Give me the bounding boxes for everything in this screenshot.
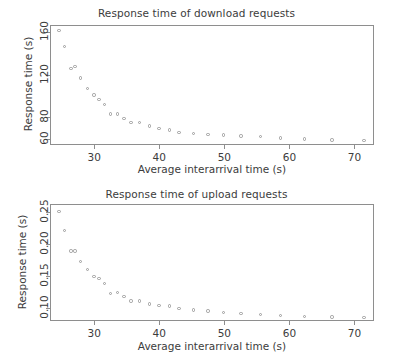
data-point	[129, 121, 132, 124]
data-point	[239, 312, 242, 315]
plot-frame-upload	[50, 204, 374, 321]
data-point	[109, 292, 112, 295]
data-point	[362, 316, 365, 319]
data-point	[177, 307, 180, 310]
data-point	[192, 132, 195, 135]
data-point	[222, 311, 225, 314]
x-tick-label: 60	[283, 151, 296, 163]
chart-title-upload: Response time of upload requests	[0, 188, 393, 200]
data-point	[73, 249, 76, 252]
x-axis-title-upload: Average interarrival time (s)	[50, 340, 374, 352]
chart-panel-upload: Response time of upload requests Respons…	[0, 182, 393, 364]
data-point	[192, 308, 195, 311]
data-point	[63, 45, 66, 48]
x-axis-title-download: Average interarrival time (s)	[50, 163, 374, 175]
chart-title-download: Response time of download requests	[0, 7, 393, 19]
x-tick	[94, 145, 95, 149]
data-point	[177, 131, 180, 134]
data-point	[259, 135, 262, 138]
scatter-points-download	[51, 26, 373, 144]
x-tick-label: 60	[283, 327, 296, 339]
x-tick-label: 50	[218, 327, 231, 339]
data-point	[116, 291, 119, 294]
x-tick-label: 40	[153, 327, 166, 339]
data-point	[362, 139, 365, 142]
data-point	[122, 117, 125, 120]
x-tick	[289, 321, 290, 325]
y-axis-title-upload: Response time (s)	[16, 202, 28, 322]
data-point	[157, 127, 160, 130]
y-tick-label: 60	[38, 126, 50, 150]
y-tick-label: 0.15	[38, 263, 50, 287]
x-tick	[354, 145, 355, 149]
data-point	[279, 314, 282, 317]
y-tick-label: 160	[38, 19, 50, 43]
data-point	[116, 112, 119, 115]
x-tick	[94, 321, 95, 325]
data-point	[79, 260, 82, 263]
data-point	[279, 136, 282, 139]
data-point	[103, 282, 106, 285]
data-point	[168, 304, 171, 307]
x-tick-label: 70	[348, 151, 361, 163]
data-point	[129, 299, 132, 302]
data-point	[206, 133, 209, 136]
scatter-points-upload	[51, 205, 373, 320]
data-point	[330, 138, 333, 141]
data-point	[92, 93, 95, 96]
data-point	[69, 249, 72, 252]
data-point	[57, 29, 60, 32]
data-point	[148, 302, 151, 305]
x-tick-label: 50	[218, 151, 231, 163]
y-axis-title-download: Response time (s)	[22, 24, 34, 144]
data-point	[63, 229, 66, 232]
data-point	[57, 210, 60, 213]
y-tick-label: 0.20	[38, 231, 50, 255]
x-tick	[159, 321, 160, 325]
data-point	[86, 268, 89, 271]
data-point	[69, 67, 72, 70]
data-point	[122, 295, 125, 298]
data-point	[97, 277, 100, 280]
x-tick-label: 30	[88, 151, 101, 163]
data-point	[138, 299, 141, 302]
plot-frame-download	[50, 25, 374, 145]
x-tick	[159, 145, 160, 149]
data-point	[303, 315, 306, 318]
y-tick-label: 120	[38, 62, 50, 86]
chart-panel-download: Response time of download requests Respo…	[0, 0, 393, 182]
data-point	[259, 313, 262, 316]
x-tick	[224, 321, 225, 325]
data-point	[239, 134, 242, 137]
y-tick-label: 0.10	[38, 295, 50, 319]
data-point	[206, 309, 209, 312]
x-tick-label: 40	[153, 151, 166, 163]
data-point	[303, 137, 306, 140]
data-point	[109, 112, 112, 115]
x-tick	[224, 145, 225, 149]
x-tick	[354, 321, 355, 325]
data-point	[157, 304, 160, 307]
data-point	[103, 103, 106, 106]
x-tick	[289, 145, 290, 149]
data-point	[222, 133, 225, 136]
data-point	[92, 275, 95, 278]
data-point	[73, 65, 76, 68]
data-point	[148, 124, 151, 127]
data-point	[79, 76, 82, 79]
x-tick-label: 70	[348, 327, 361, 339]
x-tick-label: 30	[88, 327, 101, 339]
data-point	[138, 121, 141, 124]
figure: Response time of download requests Respo…	[0, 0, 393, 364]
y-tick-label: 0.25	[38, 199, 50, 223]
data-point	[86, 87, 89, 90]
data-point	[330, 315, 333, 318]
data-point	[168, 128, 171, 131]
data-point	[97, 98, 100, 101]
y-tick-label: 80	[38, 104, 50, 128]
